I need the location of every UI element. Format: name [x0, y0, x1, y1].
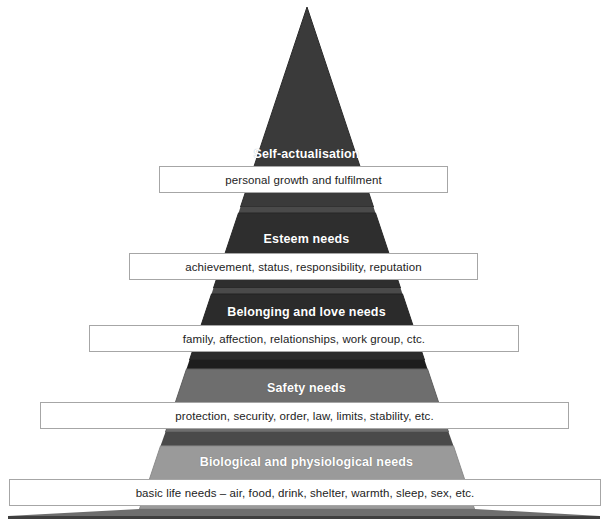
pyramid-separator-4	[161, 432, 454, 446]
tier-title-belonging-and-love: Belonging and love needs	[0, 305, 613, 319]
tier-title-safety: Safety needs	[0, 381, 613, 395]
maslow-pyramid-diagram: Self-actualisation personal growth and f…	[0, 0, 613, 521]
pyramid-base-slab	[8, 509, 600, 516]
tier-description-safety: protection, security, order, law, limits…	[40, 402, 569, 429]
tier-description-esteem: achievement, status, responsibility, rep…	[129, 253, 478, 280]
tier-title-esteem: Esteem needs	[0, 232, 613, 246]
pyramid-separator-1	[239, 207, 376, 213]
pyramid-base-slab-shadow	[8, 516, 600, 519]
tier-description-biological-and-physiological: basic life needs – air, food, drink, she…	[9, 479, 601, 506]
tier-title-self-actualisation: Self-actualisation	[0, 147, 613, 161]
tier-description-belonging-and-love: family, affection, relationships, work g…	[89, 325, 519, 352]
tier-title-biological-and-physiological: Biological and physiological needs	[0, 455, 613, 469]
tier-description-self-actualisation: personal growth and fulfilment	[159, 166, 448, 193]
pyramid-separator-2	[212, 288, 403, 294]
pyramid-separator-3	[187, 360, 428, 369]
